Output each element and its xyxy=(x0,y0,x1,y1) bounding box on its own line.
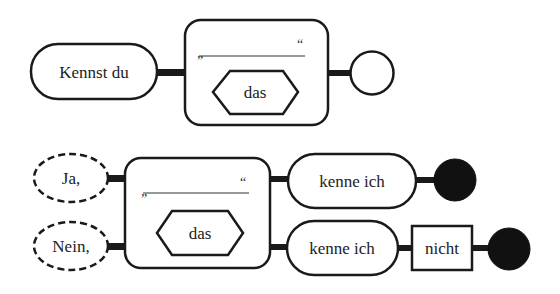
connector xyxy=(156,69,186,76)
box-label: nicht xyxy=(425,239,459,258)
sentence-diagram: Kennst du „ “ das Ja, xyxy=(0,0,560,294)
connector xyxy=(415,177,435,183)
connector xyxy=(269,244,288,250)
pill-kenne-ich-no: kenne ich xyxy=(287,221,398,275)
connector xyxy=(327,70,351,76)
quote-block: „ “ das xyxy=(185,20,328,125)
pill-label: Kennst du xyxy=(59,63,129,82)
start-pill-kennst-du: Kennst du xyxy=(31,44,157,99)
start-ellipse-ja: Ja, xyxy=(34,154,108,202)
quote-close: “ xyxy=(297,37,303,52)
end-circle-filled xyxy=(488,228,530,270)
box-nicht: nicht xyxy=(412,226,472,270)
hexagon-label: das xyxy=(189,224,212,243)
quote-open: „ xyxy=(197,46,203,61)
row-2: Ja, Nein, „ “ das kenne ich kenne i xyxy=(34,154,530,275)
row-1: Kennst du „ “ das xyxy=(31,20,394,125)
quote-block: „ “ das xyxy=(125,158,270,268)
connector xyxy=(107,175,126,182)
ellipse-label: Nein, xyxy=(52,237,89,256)
quote-open: „ xyxy=(141,184,147,199)
connector xyxy=(107,243,126,250)
quote-close: “ xyxy=(240,175,246,190)
start-ellipse-nein: Nein, xyxy=(34,222,108,270)
pill-label: kenne ich xyxy=(319,172,385,191)
hexagon-das: das xyxy=(213,71,298,114)
pill-label: kenne ich xyxy=(309,239,375,258)
end-circle-empty xyxy=(351,52,394,95)
ellipse-label: Ja, xyxy=(62,169,80,188)
pill-kenne-ich-yes: kenne ich xyxy=(288,154,416,208)
hexagon-das: das xyxy=(157,211,243,255)
end-circle-filled xyxy=(434,159,476,201)
hexagon-label: das xyxy=(244,83,267,102)
connector xyxy=(472,245,490,251)
